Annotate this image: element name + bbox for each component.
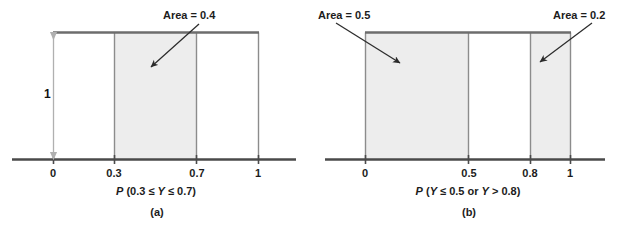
caption-open-a: (0.3 ≤ <box>123 185 157 197</box>
x-tick-label-a-0: 0 <box>50 168 56 179</box>
x-tick-label-b-3: 1 <box>567 168 573 179</box>
panel-b: Area = 0.5 Area = 0.2 0 0.5 0.8 1 P (Y ≤… <box>310 0 619 226</box>
x-tick-label-a-1: 0.3 <box>106 168 121 179</box>
shaded-region-b-left <box>365 33 468 159</box>
panel-tag-b: (b) <box>462 207 476 218</box>
area-label-a: Area = 0.4 <box>163 10 215 21</box>
caption-symbol-y-a: Y <box>158 185 165 197</box>
x-tick-label-b-0: 0 <box>362 168 368 179</box>
x-tick-label-b-1: 0.5 <box>461 168 476 179</box>
panel-a: 1 Area = 0.4 0 0.3 0.7 1 P (0.3 ≤ Y ≤ 0.… <box>0 0 310 226</box>
caption-close-a: ≤ 0.7) <box>165 185 196 197</box>
shaded-region-b-right <box>530 33 570 159</box>
area-label-b-right: Area = 0.2 <box>553 10 605 21</box>
shaded-region-a <box>114 33 197 159</box>
probability-caption-a: P (0.3 ≤ Y ≤ 0.7) <box>116 186 196 197</box>
density-height-label-a: 1 <box>44 88 51 100</box>
x-tick-label-b-2: 0.8 <box>522 168 537 179</box>
x-tick-label-a-2: 0.7 <box>189 168 204 179</box>
panel-tag-a: (a) <box>150 207 163 218</box>
area-label-b-left: Area = 0.5 <box>318 10 370 21</box>
uniform-distribution-figure: 1 Area = 0.4 0 0.3 0.7 1 P (0.3 ≤ Y ≤ 0.… <box>0 0 619 226</box>
caption-mid-b: ≤ 0.5 or <box>437 185 482 197</box>
x-tick-label-a-3: 1 <box>255 168 261 179</box>
probability-caption-b: P (Y ≤ 0.5 or Y > 0.8) <box>416 186 521 197</box>
caption-close-b: > 0.8) <box>489 185 521 197</box>
